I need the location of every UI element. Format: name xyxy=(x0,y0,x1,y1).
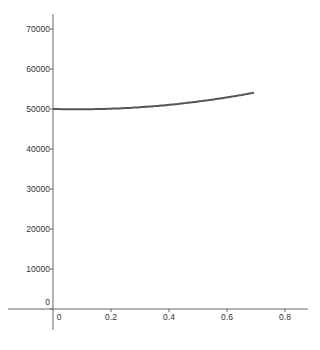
x-ticks: 00.20.40.60.8 xyxy=(57,309,292,322)
x-tick-label: 0.8 xyxy=(279,312,291,322)
x-tick-label: 0.4 xyxy=(163,312,175,322)
line-chart: 010000200003000040000500006000070000 00.… xyxy=(0,0,320,350)
y-tick-label: 20000 xyxy=(26,224,50,234)
y-tick-label: 60000 xyxy=(26,64,50,74)
data-curve xyxy=(53,93,254,110)
x-tick-label: 0.6 xyxy=(221,312,233,322)
y-tick-label: 0 xyxy=(45,297,50,307)
y-tick-label: 30000 xyxy=(26,184,50,194)
y-tick-label: 70000 xyxy=(26,24,50,34)
y-tick-label: 50000 xyxy=(26,104,50,114)
x-tick-label: 0.2 xyxy=(105,312,117,322)
y-tick-label: 40000 xyxy=(26,144,50,154)
y-ticks: 010000200003000040000500006000070000 xyxy=(26,24,53,309)
y-tick-label: 10000 xyxy=(26,264,50,274)
x-tick-label: 0 xyxy=(57,312,62,322)
